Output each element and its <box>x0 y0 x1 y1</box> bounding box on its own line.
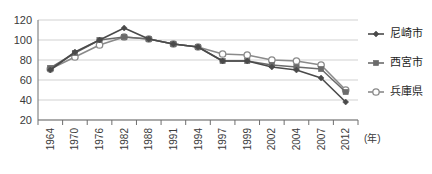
diamond-marker <box>373 31 379 37</box>
open-circle-marker <box>293 58 299 64</box>
y-axis-tick-label: 60 <box>20 74 32 86</box>
line-chart: 20406080100120 1964197019761982198819911… <box>0 0 432 174</box>
y-axis-tick-label: 40 <box>20 94 32 106</box>
x-axis-tick-label: 1964 <box>45 128 56 151</box>
legend-item-尼崎市[interactable]: 尼崎市 <box>368 26 423 39</box>
legend: 尼崎市西宮市兵庫県 <box>368 26 423 97</box>
y-axis-tick-label: 120 <box>14 14 32 26</box>
x-axis-tick-labels: 1964197019761982198819911994199719992002… <box>45 128 351 151</box>
x-axis-tick-label: 1976 <box>94 128 105 151</box>
x-axis-tick-label: 2007 <box>316 128 327 151</box>
open-circle-marker <box>219 51 225 57</box>
legend-label: 兵庫県 <box>390 84 423 97</box>
legend-item-西宮市[interactable]: 西宮市 <box>368 55 423 68</box>
x-axis-tick-label: 1999 <box>242 128 253 151</box>
square-marker <box>373 60 378 65</box>
open-circle-marker <box>373 89 379 95</box>
x-axis-unit-label: (年) <box>364 132 381 144</box>
y-axis-tick-label: 80 <box>20 54 32 66</box>
x-axis-unit-label: (年) <box>364 132 381 144</box>
gridlines-group <box>38 20 358 120</box>
x-axis-tick-label: 2002 <box>266 128 277 151</box>
x-axis-tick-label: 1997 <box>217 128 228 151</box>
data-series-group <box>47 25 349 105</box>
x-axis-tick-label: 2012 <box>340 128 351 151</box>
square-marker <box>121 34 126 39</box>
open-circle-marker <box>244 52 250 58</box>
legend-label: 西宮市 <box>390 55 423 68</box>
x-axis-tick-label: 1991 <box>168 128 179 151</box>
x-axis-tick-label: 1982 <box>119 128 130 151</box>
x-axis-tick-label: 1994 <box>193 128 204 151</box>
axis-lines <box>38 20 358 120</box>
series-尼崎市 <box>47 25 348 105</box>
y-axis-tick-labels: 20406080100120 <box>14 14 32 126</box>
diamond-marker <box>121 25 127 31</box>
x-axis-tick-label: 2004 <box>291 128 302 151</box>
y-axis-tick-label: 100 <box>14 34 32 46</box>
x-axis-ticks <box>38 120 358 125</box>
legend-item-兵庫県[interactable]: 兵庫県 <box>368 84 423 97</box>
series-line <box>50 28 345 102</box>
y-axis-tick-label: 20 <box>20 114 32 126</box>
legend-label: 尼崎市 <box>390 26 423 39</box>
square-marker <box>343 89 348 94</box>
square-marker <box>318 66 323 71</box>
x-axis-tick-label: 1970 <box>69 128 80 151</box>
x-axis-tick-label: 1988 <box>143 128 154 151</box>
chart-canvas: 20406080100120 1964197019761982198819911… <box>0 0 432 174</box>
